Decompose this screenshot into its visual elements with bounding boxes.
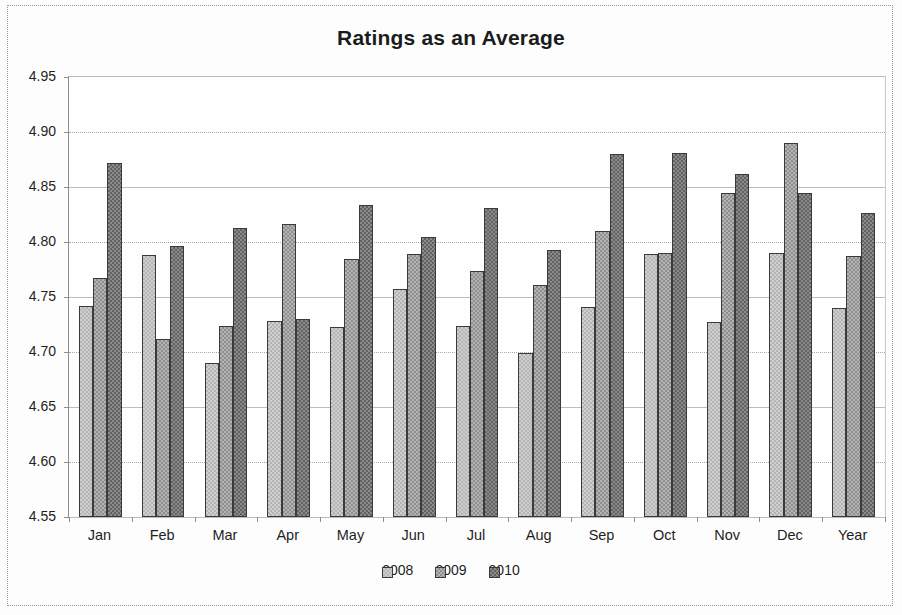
- x-tick-mark: [697, 517, 698, 522]
- x-tick-mark: [446, 517, 447, 522]
- legend-item-2010[interactable]: 2010: [489, 562, 520, 578]
- bar-may-2009: [344, 259, 358, 518]
- bar-group: [257, 77, 320, 517]
- x-axis-label-dec: Dec: [777, 527, 803, 543]
- x-axis-label-jan: Jan: [88, 527, 111, 543]
- y-axis-tick-label: 4.75: [0, 288, 56, 304]
- bar-dec-2010: [798, 193, 812, 518]
- chart-container: Ratings as an Average 4.954.904.854.804.…: [0, 0, 902, 615]
- bar-group: [634, 77, 697, 517]
- bar-group: [195, 77, 258, 517]
- bar-group: [697, 77, 760, 517]
- y-axis-tick-label: 4.90: [0, 123, 56, 139]
- bar-jun-2008: [393, 289, 407, 517]
- x-tick-mark: [822, 517, 823, 522]
- bar-may-2010: [359, 205, 373, 517]
- x-axis-label-apr: Apr: [276, 527, 299, 543]
- x-axis-label-year: Year: [838, 527, 867, 543]
- y-axis-tick-label: 4.65: [0, 398, 56, 414]
- bar-nov-2008: [707, 322, 721, 517]
- bar-group: [759, 77, 822, 517]
- bar-jul-2010: [484, 208, 498, 517]
- bar-jan-2008: [79, 306, 93, 517]
- x-tick-mark: [759, 517, 760, 522]
- bar-feb-2008: [142, 255, 156, 517]
- bar-group: [69, 77, 132, 517]
- bar-group: [508, 77, 571, 517]
- x-axis-label-sep: Sep: [589, 527, 615, 543]
- y-axis-tick-label: 4.70: [0, 343, 56, 359]
- bar-aug-2009: [533, 285, 547, 517]
- x-tick-mark: [257, 517, 258, 522]
- legend-item-2009[interactable]: 2009: [435, 562, 466, 578]
- x-axis-label-may: May: [337, 527, 364, 543]
- bar-group: [571, 77, 634, 517]
- x-axis-label-oct: Oct: [653, 527, 676, 543]
- bar-oct-2009: [658, 253, 672, 517]
- y-axis-tick-label: 4.95: [0, 68, 56, 84]
- y-axis-tick-label: 4.85: [0, 178, 56, 194]
- legend-swatch-icon: [382, 567, 393, 578]
- chart-title: Ratings as an Average: [0, 26, 902, 50]
- bar-jan-2010: [107, 163, 121, 517]
- y-axis-tick-label: 4.60: [0, 453, 56, 469]
- x-tick-mark: [885, 517, 886, 522]
- bar-jul-2009: [470, 271, 484, 517]
- bar-sep-2008: [581, 307, 595, 517]
- gridline: [69, 517, 885, 518]
- bar-nov-2009: [721, 193, 735, 518]
- x-tick-mark: [320, 517, 321, 522]
- bar-year-2010: [861, 213, 875, 517]
- bar-oct-2008: [644, 254, 658, 517]
- bar-group: [446, 77, 509, 517]
- x-axis-label-nov: Nov: [714, 527, 740, 543]
- bar-apr-2008: [267, 321, 281, 517]
- x-tick-mark: [571, 517, 572, 522]
- bar-mar-2008: [205, 363, 219, 517]
- bar-group: [132, 77, 195, 517]
- bar-nov-2010: [735, 174, 749, 517]
- bar-dec-2009: [784, 143, 798, 517]
- legend-swatch-icon: [435, 567, 446, 578]
- bar-group: [320, 77, 383, 517]
- bar-apr-2010: [296, 319, 310, 517]
- bar-may-2008: [330, 327, 344, 517]
- bar-aug-2008: [518, 353, 532, 517]
- bar-jan-2009: [93, 278, 107, 517]
- x-axis-label-jul: Jul: [467, 527, 486, 543]
- x-tick-mark: [69, 517, 70, 522]
- bar-oct-2010: [672, 153, 686, 517]
- bar-apr-2009: [282, 224, 296, 517]
- bar-dec-2008: [769, 253, 783, 517]
- chart-legend: 200820092010: [0, 562, 902, 578]
- bar-jun-2009: [407, 254, 421, 517]
- x-axis-label-feb: Feb: [150, 527, 175, 543]
- bar-mar-2010: [233, 228, 247, 517]
- x-tick-mark: [195, 517, 196, 522]
- y-axis-tick-label: 4.55: [0, 508, 56, 524]
- bar-sep-2009: [595, 231, 609, 517]
- bar-aug-2010: [547, 250, 561, 517]
- x-tick-mark: [508, 517, 509, 522]
- x-tick-mark: [132, 517, 133, 522]
- bar-jul-2008: [456, 326, 470, 517]
- bar-feb-2010: [170, 246, 184, 517]
- bar-jun-2010: [421, 237, 435, 518]
- x-axis-label-jun: Jun: [402, 527, 425, 543]
- legend-item-2008[interactable]: 2008: [382, 562, 413, 578]
- x-axis-label-mar: Mar: [212, 527, 237, 543]
- legend-swatch-icon: [489, 567, 500, 578]
- bar-year-2008: [832, 308, 846, 517]
- bar-group: [383, 77, 446, 517]
- plot-area: [68, 76, 886, 518]
- bar-sep-2010: [610, 154, 624, 517]
- x-tick-mark: [383, 517, 384, 522]
- bar-group: [822, 77, 885, 517]
- bar-feb-2009: [156, 339, 170, 517]
- bar-mar-2009: [219, 326, 233, 517]
- x-axis-label-aug: Aug: [526, 527, 552, 543]
- x-tick-mark: [634, 517, 635, 522]
- bar-year-2009: [846, 256, 860, 517]
- y-axis-tick-label: 4.80: [0, 233, 56, 249]
